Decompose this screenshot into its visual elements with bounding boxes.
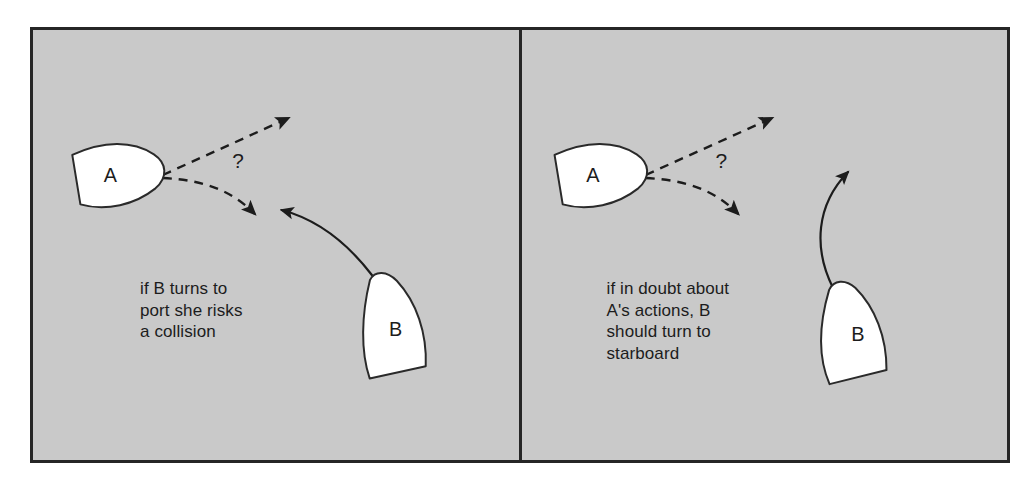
vessel-b: B [817,281,892,388]
turn-to-starboard-caption: if in doubt about A's actions, B should … [607,278,730,364]
risk-of-collision-panel: ? A B if B turns to port she risks a col… [33,30,522,460]
panel-pair: ? A B if B turns to port she risks a col… [30,27,1010,463]
collision-avoidance-figure: ? A B if B turns to port she risks a col… [0,0,1032,493]
vessel-a-straight-course-arrow [645,118,772,175]
vessel-b-label: B [851,323,864,345]
vessel-a: A [72,139,168,210]
uncertainty-question-mark: ? [715,149,727,172]
vessel-a-curved-course-arrow [163,178,255,214]
vessel-a: A [553,139,649,210]
vessel-a-label: A [586,164,600,186]
vessel-a-straight-course-arrow [163,118,289,175]
vessel-a-hull [553,139,649,210]
uncertainty-question-mark: ? [232,149,244,172]
left-panel-diagram: ? A B [33,30,519,460]
vessel-b-label: B [389,318,402,340]
vessel-b: B [358,272,435,385]
vessel-b-course-arrow [282,210,372,275]
turn-to-starboard-panel: ? A B if in doubt about A's actions, B s… [522,30,1008,460]
vessel-a-curved-course-arrow [645,178,738,214]
right-panel-diagram: ? A B [522,30,1008,460]
vessel-a-hull [72,139,168,210]
vessel-b-course-arrow [820,172,848,288]
risk-of-collision-caption: if B turns to port she risks a collision [140,278,243,343]
vessel-a-label: A [104,164,118,186]
